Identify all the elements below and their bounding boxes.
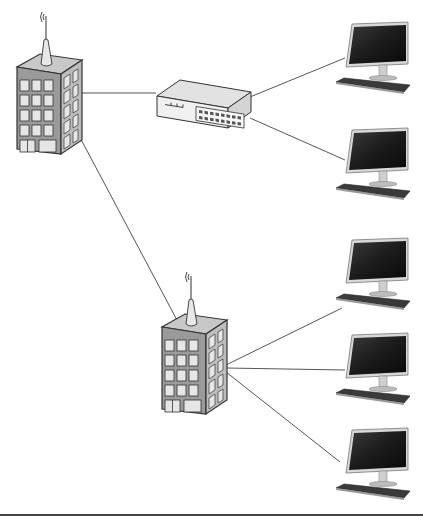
bottom-divider bbox=[0, 0, 423, 519]
network-diagram bbox=[0, 0, 423, 519]
